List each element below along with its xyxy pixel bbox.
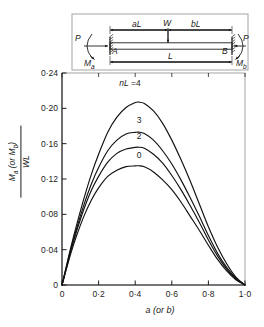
x-tick-label: 0·8 xyxy=(196,289,220,299)
y-axis-label: Ma (or Mb) WL xyxy=(8,126,31,198)
curve-label-0: 0 xyxy=(137,150,142,160)
x-tick-label: 0 xyxy=(50,289,74,299)
y-tick-label: 0·16 xyxy=(18,139,58,149)
force-p-right-label: P xyxy=(243,33,249,43)
load-w-label: W xyxy=(163,18,171,28)
curve-nl2 xyxy=(62,147,245,285)
force-p-left-label: P xyxy=(75,33,81,43)
dimension-bl-label: bL xyxy=(191,19,200,29)
figure-container: Ma (or Mb) WL a (or b) PPMaMbABaLWbLL00·… xyxy=(0,0,264,327)
curve-label-3: 3 xyxy=(137,115,142,125)
legend-label-nl4: nL =4 xyxy=(119,78,141,88)
x-tick-label: 0·6 xyxy=(160,289,184,299)
x-axis-label: a (or b) xyxy=(60,305,260,315)
y-tick-label: 0·20 xyxy=(18,103,58,113)
dimension-l-label: L xyxy=(168,51,173,61)
dimension-al-label: aL xyxy=(132,19,141,29)
y-axis-label-numerator: Ma (or Mb) xyxy=(8,126,21,198)
moment-ma-label: Ma xyxy=(84,58,95,70)
x-tick-label: 1·0 xyxy=(233,289,257,299)
y-tick-label: 0·12 xyxy=(18,174,58,184)
y-tick-label: 0·04 xyxy=(18,245,58,255)
x-tick-label: 0·2 xyxy=(87,289,111,299)
x-tick-label: 0·4 xyxy=(123,289,147,299)
moment-mb-label: Mb xyxy=(236,58,247,70)
curve-nl0 xyxy=(62,166,245,285)
node-b-label: B xyxy=(222,46,228,56)
y-tick-label: 0·08 xyxy=(18,209,58,219)
node-a-label: A xyxy=(112,46,118,56)
curve-label-2: 2 xyxy=(137,131,142,141)
y-tick-label: 0·24 xyxy=(18,68,58,78)
y-axis-label-denominator: WL xyxy=(21,126,31,198)
curve-nl3 xyxy=(62,132,245,285)
